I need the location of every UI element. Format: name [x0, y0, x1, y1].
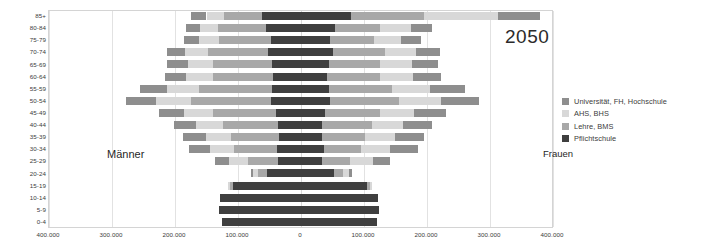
bar-segment-females-75-79 [301, 36, 330, 44]
legend-label: AHS, BHS [574, 109, 609, 118]
bar-segment-males-15-19 [230, 182, 233, 190]
bar-segment-females-65-69 [329, 60, 381, 68]
bar-segment-males-40-44 [196, 121, 222, 129]
bar-segment-males-25-29 [278, 157, 301, 165]
bar-segment-females-45-49 [380, 109, 414, 117]
bar-segment-females-20-24 [349, 169, 352, 177]
bar-segment-males-75-79 [184, 36, 199, 44]
chart-legend: Universität, FH, HochschuleAHS, BHSLehre… [562, 95, 708, 145]
bar-segment-females-50-54 [330, 97, 399, 105]
bar-segment-females-35-39 [322, 133, 365, 141]
y-tick-65-69: 65-69 [2, 61, 46, 69]
bar-segment-males-30-34 [189, 145, 210, 153]
bar-segment-females-15-19 [301, 182, 367, 190]
x-tick-5: 100.000 [333, 231, 393, 238]
bar-segment-males-85+ [224, 12, 262, 20]
bar-segment-males-65-69 [213, 60, 272, 68]
bar-segment-females-60-64 [301, 73, 327, 81]
legend-item[interactable]: Lehre, BMS [562, 120, 708, 133]
y-tick-80-84: 80-84 [2, 24, 46, 32]
x-tick-7: 300.000 [459, 231, 519, 238]
bar-segment-males-50-54 [156, 97, 191, 105]
bar-segment-males-70-74 [167, 48, 185, 56]
bar-segment-females-75-79 [374, 36, 400, 44]
bar-segment-females-60-64 [380, 73, 413, 81]
bar-segment-females-30-34 [390, 145, 418, 153]
bar-segment-males-45-49 [276, 109, 301, 117]
bar-segment-males-45-49 [184, 109, 213, 117]
bar-segment-males-85+ [262, 12, 301, 20]
y-tick-40-44: 40-44 [2, 121, 46, 129]
bar-segment-females-65-69 [301, 60, 329, 68]
bar-segment-females-30-34 [324, 145, 362, 153]
bar-segment-females-80-84 [301, 24, 335, 32]
bar-row [49, 96, 552, 107]
bar-row [49, 168, 552, 179]
bar-segment-males-85+ [191, 12, 206, 20]
bar-row [49, 35, 552, 46]
bar-segment-females-40-44 [322, 121, 371, 129]
y-axis-age-groups: 85+80-8475-7970-7465-6960-6455-5950-5445… [0, 10, 46, 228]
bar-segment-females-55-59 [392, 85, 430, 93]
bar-segment-males-65-69 [272, 60, 301, 68]
x-tick-1: 300.000 [81, 231, 141, 238]
bar-row [49, 205, 552, 216]
legend-swatch-icon [562, 135, 569, 142]
bar-segment-females-0-4 [301, 218, 377, 226]
bar-segment-males-70-74 [268, 48, 301, 56]
bar-segment-females-25-29 [322, 157, 350, 165]
bar-segment-males-35-39 [279, 133, 301, 141]
population-pyramid-chart: 85+80-8475-7970-7465-6960-6455-5950-5445… [0, 0, 708, 250]
bar-segment-males-25-29 [248, 157, 278, 165]
bar-segment-males-75-79 [271, 36, 301, 44]
bar-segment-females-25-29 [373, 157, 391, 165]
legend-swatch-icon [562, 123, 569, 130]
bar-row [49, 120, 552, 131]
bar-segment-males-20-24 [267, 169, 301, 177]
bar-segment-males-50-54 [126, 97, 156, 105]
bar-segment-males-55-59 [167, 85, 199, 93]
bar-segment-males-40-44 [223, 121, 278, 129]
bar-segment-females-40-44 [403, 121, 432, 129]
bar-segment-males-40-44 [174, 121, 197, 129]
y-tick-70-74: 70-74 [2, 48, 46, 56]
x-axis-population: 400.000300.000200.000100.0000100.000200.… [48, 231, 553, 245]
bar-segment-females-5-9 [301, 206, 379, 214]
bar-segment-males-75-79 [199, 36, 219, 44]
bar-segment-females-50-54 [399, 97, 441, 105]
bar-segment-males-50-54 [271, 97, 301, 105]
bar-segment-males-80-84 [218, 24, 266, 32]
y-tick-30-34: 30-34 [2, 145, 46, 153]
bar-segment-males-80-84 [200, 24, 219, 32]
legend-item[interactable]: Universität, FH, Hochschule [562, 95, 708, 108]
y-tick-5-9: 5-9 [2, 206, 46, 214]
bar-segment-males-15-19 [228, 182, 230, 190]
bar-segment-females-60-64 [413, 73, 441, 81]
bar-segment-females-35-39 [365, 133, 395, 141]
bar-segment-males-50-54 [191, 97, 270, 105]
bar-segment-females-80-84 [411, 24, 432, 32]
bar-segment-females-35-39 [301, 133, 322, 141]
bar-segment-females-55-59 [430, 85, 465, 93]
bar-row [49, 132, 552, 143]
bar-segment-males-30-34 [277, 145, 301, 153]
x-tick-8: 400.000 [522, 231, 582, 238]
x-tick-3: 100.000 [207, 231, 267, 238]
bar-segment-males-75-79 [219, 36, 271, 44]
bar-segment-males-35-39 [231, 133, 279, 141]
bar-segment-females-10-14 [301, 194, 378, 202]
bar-segment-females-20-24 [334, 169, 343, 177]
legend-item[interactable]: AHS, BHS [562, 108, 708, 121]
legend-item[interactable]: Pflichtschule [562, 133, 708, 146]
bar-segment-males-30-34 [234, 145, 277, 153]
bar-segment-females-45-49 [325, 109, 380, 117]
bar-segment-females-35-39 [395, 133, 424, 141]
bar-row [49, 84, 552, 95]
bar-segment-males-70-74 [208, 48, 268, 56]
chart-title-year: 2050 [505, 26, 549, 48]
bar-segment-males-0-4 [222, 218, 301, 226]
y-tick-20-24: 20-24 [2, 170, 46, 178]
bar-segment-males-10-14 [220, 194, 301, 202]
bar-segment-females-85+ [498, 12, 541, 20]
bar-segment-males-40-44 [278, 121, 301, 129]
